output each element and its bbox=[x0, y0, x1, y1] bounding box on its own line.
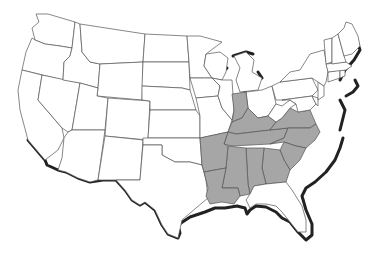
state-co[interactable] bbox=[105, 98, 150, 140]
state-nm[interactable] bbox=[98, 136, 143, 180]
state-ks[interactable] bbox=[148, 110, 200, 138]
state-ar[interactable] bbox=[200, 132, 228, 172]
state-sd[interactable] bbox=[142, 62, 190, 90]
state-ri[interactable] bbox=[340, 70, 345, 78]
states bbox=[18, 14, 360, 238]
state-az[interactable] bbox=[58, 130, 105, 182]
state-ne[interactable] bbox=[142, 86, 196, 110]
state-nd[interactable] bbox=[143, 34, 189, 62]
us-map bbox=[0, 0, 376, 256]
state-wy[interactable] bbox=[97, 62, 143, 100]
state-mt[interactable] bbox=[80, 24, 145, 64]
state-ma[interactable] bbox=[326, 62, 352, 72]
